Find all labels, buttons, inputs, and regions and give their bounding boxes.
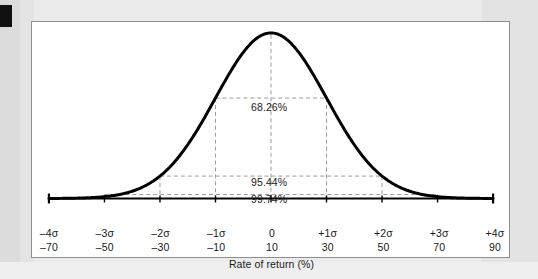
vertical-guide-lines xyxy=(104,35,437,197)
tick-label-value: 10 xyxy=(266,241,278,253)
tick-label-value: –70 xyxy=(40,241,58,253)
tick-label-sigma: –1σ xyxy=(207,227,225,239)
tick-label-sigma: +4σ xyxy=(486,227,505,239)
tick-label-sigma: –3σ xyxy=(96,227,114,239)
annotation-99: 99.74% xyxy=(251,193,287,205)
tick-label-value: 30 xyxy=(322,241,334,253)
tick-label-sigma: –4σ xyxy=(40,227,58,239)
x-axis-title: Rate of return (%) xyxy=(32,258,511,270)
tick-label-sigma: –2σ xyxy=(151,227,169,239)
tick-label-sigma: 0 xyxy=(269,227,275,239)
annotation-68: 68.26% xyxy=(251,101,287,113)
normal-distribution-plot xyxy=(32,22,509,257)
black-corner-tab-icon xyxy=(0,5,12,27)
annotation-95: 95.44% xyxy=(251,176,287,188)
tick-label-value: 90 xyxy=(489,241,501,253)
tick-label-value: 70 xyxy=(433,241,445,253)
tick-label-value: –10 xyxy=(207,241,225,253)
tick-label-value: –50 xyxy=(96,241,114,253)
tick-label-value: 50 xyxy=(378,241,390,253)
chart-frame: 68.26% 95.44% 99.74% –4σ–70–3σ–50–2σ–30–… xyxy=(31,21,510,258)
tick-label-sigma: +3σ xyxy=(430,227,449,239)
tick-label-sigma: +1σ xyxy=(318,227,337,239)
tick-label-sigma: +2σ xyxy=(374,227,393,239)
tick-label-value: –30 xyxy=(152,241,170,253)
